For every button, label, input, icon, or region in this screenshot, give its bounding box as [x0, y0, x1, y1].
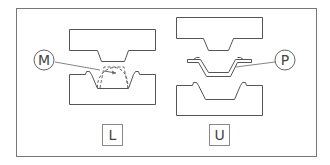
formed-part [188, 60, 252, 77]
right-lower-die [177, 83, 263, 116]
right-panel: P U [177, 18, 296, 146]
left-panel: M L [34, 30, 156, 146]
callout-m-leader [55, 62, 100, 70]
callout-p-text: P [281, 52, 289, 68]
left-lower-die [70, 72, 156, 105]
panel-label-u: U [214, 127, 224, 143]
material-outline-dashed [100, 67, 128, 88]
left-upper-die [70, 30, 156, 62]
outer-frame [17, 9, 317, 157]
right-upper-die [177, 18, 263, 51]
die-forming-diagram: M L P U [0, 0, 330, 165]
panel-label-l: L [109, 127, 117, 143]
callout-m-text: M [38, 52, 50, 68]
